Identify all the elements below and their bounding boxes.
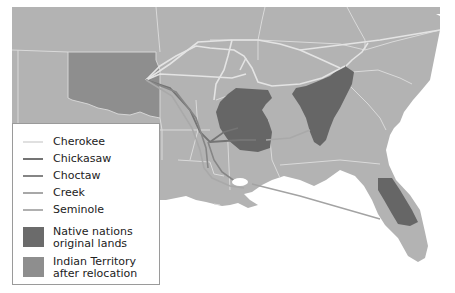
choctaw-line-swatch bbox=[23, 175, 43, 177]
legend-item-original-lands: Native nations original lands bbox=[13, 226, 133, 250]
cherokee-line-swatch bbox=[23, 141, 43, 143]
legend-label: Cherokee bbox=[53, 136, 105, 148]
map-legend: Cherokee Chickasaw Choctaw Creek Seminol… bbox=[12, 123, 160, 285]
legend-label: original lands bbox=[53, 238, 133, 250]
seminole-route bbox=[252, 184, 380, 219]
legend-label: Choctaw bbox=[53, 170, 100, 182]
legend-item-cherokee: Cherokee bbox=[13, 134, 105, 150]
creek-line-swatch bbox=[23, 192, 43, 194]
legend-label: Chickasaw bbox=[53, 153, 111, 165]
legend-item-indian-territory: Indian Territory after relocation bbox=[13, 256, 137, 280]
indian-territory-swatch bbox=[23, 257, 44, 277]
legend-item-choctaw: Choctaw bbox=[13, 168, 100, 184]
legend-label: Creek bbox=[53, 187, 85, 199]
chickasaw-line-swatch bbox=[23, 158, 43, 160]
legend-item-seminole: Seminole bbox=[13, 202, 104, 218]
original-lands-swatch bbox=[23, 227, 44, 247]
legend-item-chickasaw: Chickasaw bbox=[13, 151, 111, 167]
legend-label: after relocation bbox=[53, 268, 137, 280]
seminole-line-swatch bbox=[23, 209, 43, 211]
legend-item-creek: Creek bbox=[13, 185, 85, 201]
legend-label: Seminole bbox=[53, 204, 104, 216]
lake-pontchartrain bbox=[232, 178, 248, 186]
